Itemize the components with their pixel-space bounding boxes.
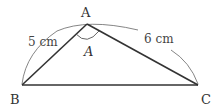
angle-label: A: [83, 44, 93, 59]
angle-arc-a: [76, 31, 99, 39]
vertex-label-a: A: [80, 5, 91, 20]
side-label-ac: 6 cm: [144, 32, 174, 46]
vertex-label-c: C: [201, 92, 211, 107]
edge-ac: [87, 24, 198, 85]
dimension-arc-ac: [171, 50, 198, 84]
triangle-diagram: A B C A 5 cm 6 cm: [0, 0, 224, 109]
vertex-label-b: B: [10, 92, 20, 107]
side-label-ab: 5 cm: [28, 35, 58, 49]
